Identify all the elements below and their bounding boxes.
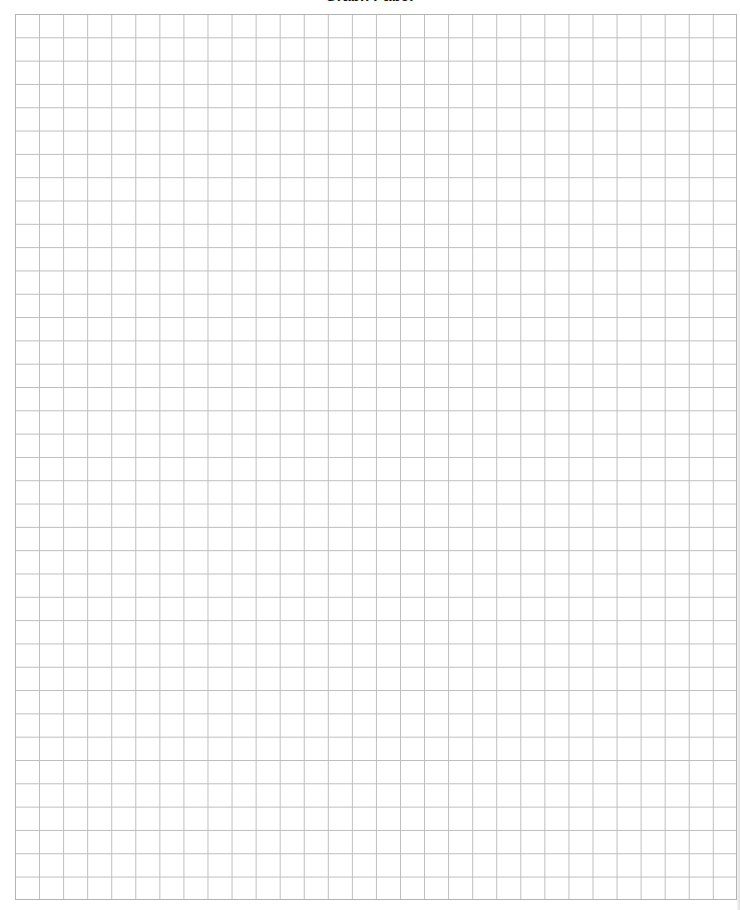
- page-title: Graph Paper: [0, 0, 740, 1]
- graph-paper-grid: [15, 14, 737, 900]
